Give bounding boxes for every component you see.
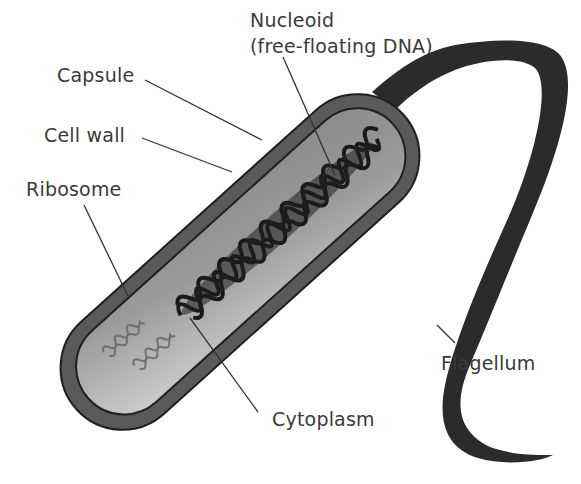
capsule-leader [145, 80, 262, 140]
flagellum [372, 41, 568, 463]
label-nucleoid-sub: (free-floating DNA) [250, 35, 433, 57]
label-capsule: Capsule [57, 64, 134, 86]
flagellum-leader [437, 325, 455, 343]
label-ribosome: Ribosome [26, 178, 122, 200]
ribosome-leader [84, 205, 128, 296]
label-cytoplasm: Cytoplasm [272, 408, 375, 430]
label-nucleoid-line2: (free-floating DNA) [250, 35, 433, 57]
label-nucleoid-line1: Nucleoid [250, 9, 334, 31]
cell-wall-leader [142, 138, 232, 172]
label-cell-wall: Cell wall [44, 124, 125, 146]
label-nucleoid: Nucleoid [250, 9, 334, 31]
label-flagellum: Flagellum [441, 352, 536, 374]
